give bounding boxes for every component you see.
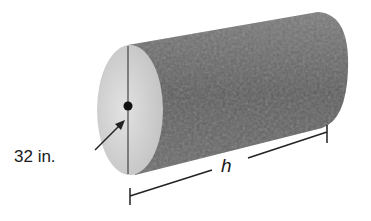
diameter-label: 32 in.: [14, 147, 56, 167]
center-point: [124, 102, 133, 111]
log-diagram: [0, 0, 371, 221]
height-label: h: [221, 155, 232, 177]
